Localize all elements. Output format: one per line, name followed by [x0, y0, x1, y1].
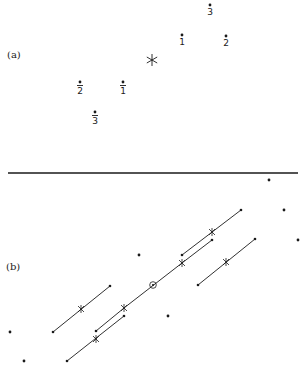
point-1-bar-label: 1	[120, 86, 126, 96]
point-dot-icon	[94, 111, 97, 114]
upper-branch	[182, 239, 213, 263]
point-dot-icon	[9, 331, 12, 334]
panel-b-label: (b)	[6, 261, 20, 272]
point-3-bar: 3	[92, 111, 98, 126]
point-1: 1	[179, 34, 185, 47]
point-dot-icon	[181, 34, 184, 37]
panel-a: (a) 3 1 2 1 2	[7, 4, 229, 126]
point-dot-icon	[211, 239, 214, 242]
circled-dot-icon	[150, 282, 157, 289]
point-dot-icon	[240, 209, 243, 212]
point-dot-icon	[225, 35, 228, 38]
point-dot-icon	[23, 360, 26, 363]
point-3: 3	[207, 4, 213, 17]
panel-b: (b)	[6, 179, 299, 363]
point-dot-icon	[254, 238, 257, 241]
point-dot-icon	[52, 331, 55, 334]
point-dot-icon	[66, 360, 69, 363]
point-2-label: 2	[223, 38, 229, 48]
isolated-points	[9, 179, 300, 363]
lower-branch	[95, 308, 124, 332]
diagram-canvas: (a) 3 1 2 1 2	[0, 0, 301, 386]
point-dot-icon	[297, 239, 300, 242]
point-2: 2	[223, 35, 229, 48]
point-dot-icon	[95, 330, 98, 333]
point-dot-icon	[268, 179, 271, 182]
cross-icon	[121, 304, 127, 312]
point-1-bar: 1	[120, 81, 126, 96]
point-dot-icon	[109, 285, 112, 288]
cross-icon	[179, 259, 185, 267]
asterisk-icon	[147, 54, 157, 66]
point-dot-icon	[181, 254, 184, 257]
point-dot-icon	[138, 254, 141, 257]
point-dot-icon	[167, 315, 170, 318]
point-dot-icon	[209, 4, 212, 7]
panel-a-label: (a)	[7, 49, 21, 60]
point-dot-icon	[123, 315, 126, 318]
point-dot-icon	[79, 81, 82, 84]
cross-icon	[209, 228, 215, 236]
point-3-label: 3	[207, 7, 213, 17]
point-dot-icon	[197, 284, 200, 287]
point-2-bar-label: 2	[77, 86, 83, 96]
point-2-bar: 2	[77, 81, 83, 96]
point-dot-icon	[122, 81, 125, 84]
point-1-label: 1	[179, 37, 185, 47]
point-3-bar-label: 3	[92, 116, 98, 126]
cross-icon	[78, 305, 84, 313]
cross-icon	[223, 258, 229, 266]
point-dot-icon	[283, 209, 286, 212]
